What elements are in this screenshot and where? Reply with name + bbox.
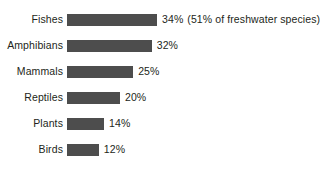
bar-fill bbox=[67, 66, 133, 78]
bar-fill bbox=[67, 92, 120, 104]
bar-row: Fishes 34% (51% of freshwater species) bbox=[0, 13, 324, 26]
bar-fill bbox=[67, 40, 152, 52]
bar-track: 34% (51% of freshwater species) bbox=[67, 13, 324, 26]
category-label: Mammals bbox=[0, 65, 67, 78]
bar-row: Plants 14% bbox=[0, 117, 324, 130]
category-label: Amphibians bbox=[0, 39, 67, 52]
bar-chart: Fishes 34% (51% of freshwater species) A… bbox=[0, 0, 324, 178]
category-label: Fishes bbox=[0, 13, 67, 26]
bar-row: Amphibians 32% bbox=[0, 39, 324, 52]
bar-track: 25% bbox=[67, 65, 324, 78]
bar-value-label: 32% bbox=[152, 39, 178, 52]
category-label: Reptiles bbox=[0, 91, 67, 104]
bar-row: Mammals 25% bbox=[0, 65, 324, 78]
category-label: Plants bbox=[0, 117, 67, 130]
bar-fill bbox=[67, 144, 99, 156]
bar-track: 12% bbox=[67, 143, 324, 156]
bar-track: 32% bbox=[67, 39, 324, 52]
bar-value-label: 20% bbox=[120, 91, 146, 104]
bar-track: 14% bbox=[67, 117, 324, 130]
category-label: Birds bbox=[0, 143, 67, 156]
bar-track: 20% bbox=[67, 91, 324, 104]
bar-fill bbox=[67, 118, 104, 130]
bar-value-label: 12% bbox=[99, 143, 125, 156]
bar-row: Reptiles 20% bbox=[0, 91, 324, 104]
bar-value-label: 14% bbox=[104, 117, 130, 130]
bar-value-label: 25% bbox=[133, 65, 159, 78]
bar-fill bbox=[67, 14, 157, 26]
bar-annotation-label: (51% of freshwater species) bbox=[183, 13, 320, 26]
bar-row: Birds 12% bbox=[0, 143, 324, 156]
bar-value-label: 34% bbox=[157, 13, 183, 26]
